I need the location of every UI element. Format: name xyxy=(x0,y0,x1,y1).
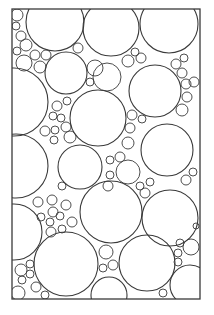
circle-packing-canvas xyxy=(0,0,214,315)
circle-packing-diagram xyxy=(0,0,214,315)
